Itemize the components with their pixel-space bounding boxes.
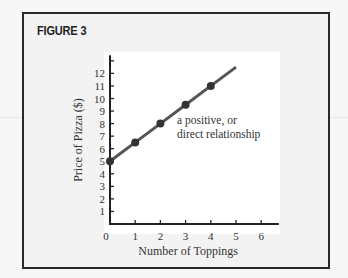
data-point-marker [156, 120, 164, 128]
data-point-marker [207, 82, 215, 90]
chart-annotation: a positive, or [177, 114, 237, 127]
data-point-marker [131, 138, 139, 146]
x-tick-label: 3 [183, 230, 189, 242]
chart-annotation: direct relationship [177, 128, 261, 141]
y-tick-label: 7 [100, 130, 106, 142]
y-tick-label: 3 [100, 180, 106, 192]
x-tick-label: 5 [233, 230, 239, 242]
x-tick-label: 1 [132, 230, 138, 242]
x-tick-label: 4 [208, 230, 214, 242]
y-tick-label: 12 [94, 67, 105, 79]
y-tick-label: 9 [100, 105, 106, 117]
y-tick-label: 8 [100, 118, 106, 130]
y-tick-label: 11 [94, 80, 105, 92]
y-tick-label: 10 [94, 93, 106, 105]
data-point-marker [106, 157, 114, 165]
x-tick-label: 6 [258, 230, 264, 242]
y-tick-label: 1 [100, 205, 106, 217]
y-tick-label: 5 [100, 155, 106, 167]
x-tick-label: 0 [103, 230, 109, 242]
plot-area [104, 52, 280, 234]
x-axis-label: Number of Toppings [138, 244, 238, 258]
y-tick-label: 2 [100, 193, 106, 205]
x-tick-label: 2 [158, 230, 164, 242]
line-chart: 1234567891011120123456 a positive, ordir… [0, 0, 348, 278]
data-point-marker [182, 101, 190, 109]
y-tick-label: 4 [100, 168, 106, 180]
y-tick-label: 6 [100, 143, 106, 155]
y-axis-label: Price of Pizza ($) [71, 98, 85, 182]
